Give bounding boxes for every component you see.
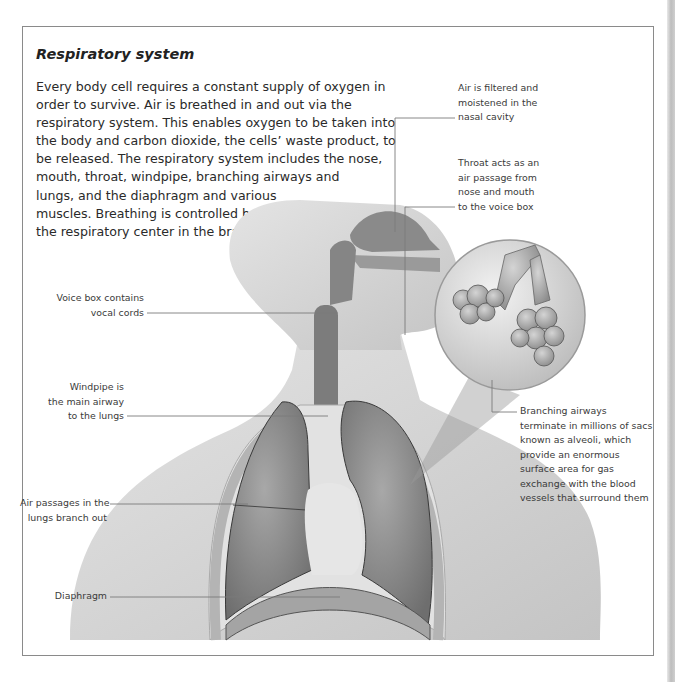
label-line: lungs branch out bbox=[20, 511, 107, 526]
label-windpipe: Windpipe is the main airway to the lungs bbox=[20, 380, 124, 424]
label-line: nose and mouth bbox=[458, 185, 539, 200]
label-line: Air is filtered and bbox=[458, 81, 538, 96]
label-alveoli: Branching airways terminate in millions … bbox=[520, 404, 652, 506]
throat-passage bbox=[330, 241, 356, 305]
label-line: Throat acts as an bbox=[458, 156, 539, 171]
respiratory-illustration bbox=[0, 0, 675, 682]
label-line: provide an enormous bbox=[520, 448, 652, 463]
label-line: Air passages in the bbox=[20, 496, 107, 511]
label-line: moistened in the bbox=[458, 96, 538, 111]
label-line: exchange with the blood bbox=[520, 477, 652, 492]
label-line: Branching airways bbox=[520, 404, 652, 419]
label-line: surface area for gas bbox=[520, 462, 652, 477]
label-throat: Throat acts as an air passage from nose … bbox=[458, 156, 539, 214]
label-line: vessels that surround them bbox=[520, 491, 652, 506]
label-line: vocal cords bbox=[20, 306, 144, 321]
label-line: the main airway bbox=[20, 395, 124, 410]
label-line: air passage from bbox=[458, 171, 539, 186]
label-line: Voice box contains bbox=[20, 291, 144, 306]
label-line: terminate in millions of sacs bbox=[520, 419, 652, 434]
label-line: nasal cavity bbox=[458, 110, 538, 125]
label-line: to the voice box bbox=[458, 200, 539, 215]
label-air-passages: Air passages in the lungs branch out bbox=[20, 496, 107, 525]
label-line: known as alveoli, which bbox=[520, 433, 652, 448]
label-nasal-cavity: Air is filtered and moistened in the nas… bbox=[458, 81, 538, 125]
label-line: Windpipe is bbox=[20, 380, 124, 395]
label-voice-box: Voice box contains vocal cords bbox=[20, 291, 144, 320]
heart-space bbox=[305, 483, 363, 575]
label-line: to the lungs bbox=[20, 409, 124, 424]
label-diaphragm: Diaphragm bbox=[20, 589, 107, 604]
label-line: Diaphragm bbox=[20, 589, 107, 604]
